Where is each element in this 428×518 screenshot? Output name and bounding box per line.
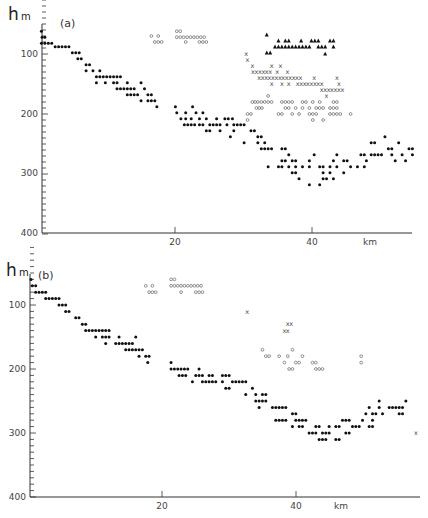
data-dot [48,297,51,300]
data-dot [124,342,127,345]
data-dot [190,123,193,126]
data-open-circle [184,41,187,44]
data-dot [308,432,311,435]
data-dot [208,123,211,126]
data-dot [338,438,341,441]
data-dot [212,123,215,126]
data-dot [61,304,64,307]
data-dot [373,141,376,144]
data-open-circle [198,41,201,44]
panel-a-label: (a) [60,17,75,30]
data-dot [114,342,117,345]
data-open-circle [322,119,325,122]
data-dot [321,432,324,435]
data-dot [241,380,244,383]
data-dot [261,393,264,396]
data-dot [274,406,277,409]
data-open-circle [264,355,267,358]
data-dot [223,117,226,120]
data-dot [88,63,91,66]
data-open-circle [201,41,204,44]
data-dot [338,425,341,428]
data-dot [294,412,297,415]
panel-b-ylabel-m: m [19,267,29,278]
data-dot [105,75,108,78]
data-triangle [323,52,327,56]
data-open-circle [175,30,178,33]
data-dot [54,297,57,300]
data-dot [294,165,297,168]
data-dot [328,171,331,174]
data-open-circle [176,284,179,287]
data-dot [116,87,119,90]
data-dot [401,406,404,409]
data-dot [176,368,179,371]
data-cross: x [270,62,274,70]
depth-profile-figure: h m (a) 100 200 300 400 20 40 km xxxxxxx… [0,0,428,518]
data-open-circle [179,30,182,33]
data-dot [58,304,61,307]
data-dot [318,425,321,428]
data-dot [287,153,290,156]
data-dot [321,438,324,441]
data-cross: x [270,80,274,88]
data-dot [368,406,371,409]
data-dot [398,406,401,409]
data-dot [186,368,189,371]
data-dot [294,419,297,422]
data-dot [221,380,224,383]
data-open-circle [180,284,183,287]
data-dot [404,400,407,403]
data-open-circle [318,368,321,371]
data-cross: x [286,327,290,335]
data-dot [294,171,297,174]
data-dot [143,87,146,90]
data-triangle [273,45,277,49]
data-dot [383,135,386,138]
data-dot [348,432,351,435]
data-dot [311,432,314,435]
data-dot [278,406,281,409]
data-triangle [316,45,320,49]
panel-a-xtick-20: 20 [169,237,181,247]
data-dot [394,406,397,409]
data-dot [267,165,270,168]
data-open-circle [261,107,264,110]
data-open-circle [291,368,294,371]
data-dot [190,117,193,120]
panel-b: h m (b) 100 200 300 400 20 40 km xxxxxx [6,247,420,511]
data-dot [94,329,97,332]
data-dot [211,374,214,377]
data-open-circle [268,355,271,358]
data-dot [112,81,115,84]
data-dot [198,117,201,120]
data-open-circle [308,107,311,110]
data-dot [44,297,47,300]
data-dot [334,438,337,441]
data-dot [411,147,414,150]
data-dot [328,165,331,168]
data-dot [280,147,283,150]
data-dot [205,117,208,120]
data-open-circle [157,41,160,44]
data-dot [193,123,196,126]
data-open-circle [339,113,342,116]
data-open-circle [315,107,318,110]
data-dot [101,336,104,339]
data-dot [131,342,134,345]
data-dot [51,297,54,300]
data-dot [198,123,201,126]
data-dot [112,75,115,78]
data-dot [140,99,143,102]
data-dot [308,165,311,168]
data-open-circle [283,361,286,364]
data-dot [141,348,144,351]
data-dot [351,425,354,428]
data-dot [284,159,287,162]
data-dot [225,123,228,126]
data-dot [57,45,60,48]
panel-b-ylabel-h: h [6,260,17,280]
data-open-circle [151,284,154,287]
data-dot [224,374,227,377]
data-dot [232,123,235,126]
